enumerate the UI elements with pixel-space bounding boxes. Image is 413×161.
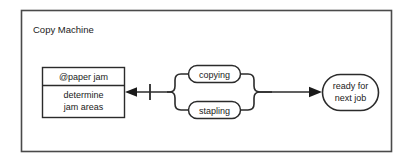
paper-jam-body-line2: jam areas (63, 102, 104, 112)
ready-for-next-job-line1: ready for (333, 81, 369, 91)
ready-for-next-job-line2: next job (335, 93, 367, 103)
paper-jam-state-node: @paper jam determine jam areas (43, 68, 125, 118)
stapling-label: stapling (199, 106, 230, 116)
paper-jam-header-label: @paper jam (59, 72, 108, 82)
branch-node-copying: copying (189, 66, 241, 83)
paper-jam-body-line1: determine (63, 90, 103, 100)
ready-for-next-job-node: ready for next job (323, 75, 379, 111)
copying-label: copying (199, 70, 230, 80)
branch-node-stapling: stapling (189, 102, 241, 119)
diagram-canvas: Copy Machine @paper jam determine jam ar… (0, 0, 413, 161)
diagram-title: Copy Machine (33, 24, 94, 35)
copy-machine-activity-diagram: Copy Machine @paper jam determine jam ar… (0, 0, 413, 161)
